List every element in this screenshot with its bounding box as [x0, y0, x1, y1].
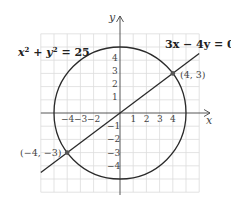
x-tick-2: 2 — [144, 114, 150, 124]
y-tick-2: 2 — [112, 79, 118, 89]
point-4-3 — [171, 71, 176, 76]
y-tick-3: 3 — [112, 66, 118, 76]
y-tick-neg1: −1 — [107, 121, 120, 131]
y-tick-1: 1 — [112, 92, 118, 102]
circle-equation-label: x2 + y2 = 25 — [17, 45, 90, 59]
line-equation-label: 3x − 4y = 0 — [165, 38, 231, 51]
x-tick-1: 1 — [131, 114, 137, 124]
x-axis-label: x — [206, 114, 213, 127]
x-tick-neg3: −3 — [74, 114, 88, 124]
x-tick-neg4: −4 — [61, 114, 75, 124]
y-tick-4: 4 — [112, 53, 118, 63]
circle-line-intersection-diagram: y x −4 −3 −2 1 2 3 4 4 3 2 1 −1 −2 −3 −4… — [0, 0, 231, 203]
point-neg4-neg3 — [65, 150, 70, 155]
y-tick-neg4: −4 — [107, 161, 121, 171]
x-tick-neg2: −2 — [87, 114, 100, 124]
point-label-neg4-neg3: (−4, −3) — [20, 147, 61, 158]
point-label-4-3: (4, 3) — [180, 69, 206, 80]
x-tick-3: 3 — [157, 114, 163, 124]
y-tick-neg2: −2 — [107, 134, 120, 144]
x-tick-4: 4 — [170, 114, 176, 124]
y-tick-neg3: −3 — [107, 148, 121, 158]
diagram-canvas: y x −4 −3 −2 1 2 3 4 4 3 2 1 −1 −2 −3 −4… — [0, 0, 231, 203]
y-axis-label: y — [108, 11, 116, 24]
